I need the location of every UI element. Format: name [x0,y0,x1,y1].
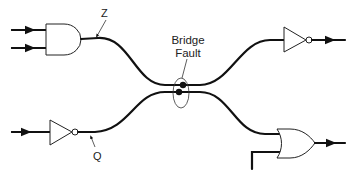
bridge-fault-marker [173,59,189,108]
net-q-wire [78,92,280,134]
and-gate-icon [46,24,81,55]
and-input-wires [12,30,46,48]
not2-gate-icon [284,27,312,52]
net-z-label: Z [101,7,108,19]
or-gate-icon [277,129,315,158]
bridge-fault-label-line2: Fault [175,47,201,59]
or-input-l-wire [252,152,281,169]
net-z-pointer [97,20,106,36]
bridge-fault-label-line1: Bridge [171,34,204,46]
not1-gate-icon [50,120,78,145]
net-q-pointer [91,137,95,147]
circuit-diagram: Z Q Bridge Fault [0,0,357,178]
net-q-label: Q [93,150,102,162]
